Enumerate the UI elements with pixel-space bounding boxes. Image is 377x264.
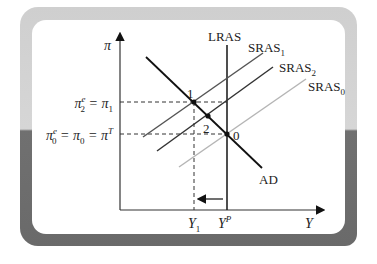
- point-0-label: 0: [233, 128, 240, 143]
- x-tick-y1: Y1: [188, 216, 200, 234]
- x-axis-label: Y: [305, 216, 315, 231]
- point-1-label: 1: [187, 86, 194, 101]
- sras0-curve: [179, 79, 306, 167]
- sras0-label: SRAS0: [308, 79, 346, 97]
- y-axis-label: π: [104, 38, 112, 53]
- ad-label: AD: [259, 172, 278, 187]
- point-2-label: 2: [203, 121, 210, 136]
- sras1-label: SRAS1: [248, 40, 285, 58]
- ad-as-diagram: π Y πe2 = π1 πe0 = π0 = πT Y1 YP LRAS SR…: [0, 0, 377, 264]
- y-tick-piT: πe0 = π0 = πT: [46, 126, 114, 146]
- point-2: [205, 113, 210, 118]
- x-tick-yp: YP: [218, 214, 232, 231]
- y-tick-pi1: πe2 = π1: [75, 94, 113, 114]
- point-0: [224, 131, 229, 136]
- ad-curve: [146, 57, 262, 168]
- sras2-curve: [157, 67, 273, 151]
- lras-label: LRAS: [208, 29, 241, 44]
- sras2-label: SRAS2: [279, 60, 316, 78]
